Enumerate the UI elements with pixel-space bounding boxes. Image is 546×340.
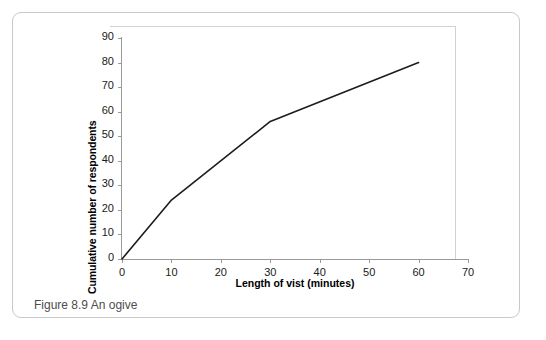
figure-caption: Figure 8.9 An ogive xyxy=(34,298,137,312)
figure-card: 0102030405060708090 010203040506070 Cumu… xyxy=(12,12,520,318)
ogive-line-series xyxy=(122,63,419,259)
x-axis-title: Length of vist (minutes) xyxy=(122,277,468,289)
y-axis-title: Cumulative number of respondents xyxy=(86,94,98,294)
